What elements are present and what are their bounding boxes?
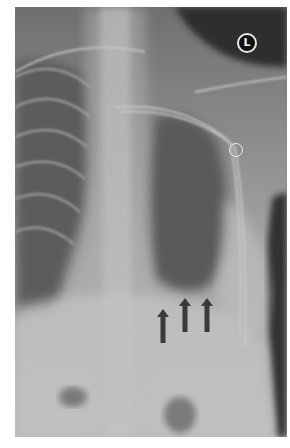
arrow-up-icon	[201, 298, 213, 332]
xray-image: L	[15, 7, 287, 437]
arrow-up-icon	[179, 298, 191, 332]
orientation-marker-l: L	[237, 33, 257, 53]
xray-anatomy	[15, 7, 287, 437]
arrow-up-icon	[157, 309, 169, 343]
ring-marker	[229, 143, 243, 157]
